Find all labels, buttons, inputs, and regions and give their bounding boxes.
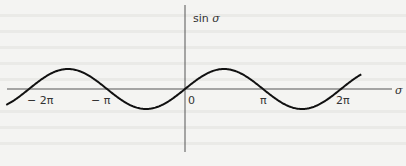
tick-label-pi: π — [260, 95, 267, 106]
x-axis-label: σ — [395, 85, 403, 96]
y-axis-label-func: sin — [193, 12, 209, 25]
tick-label-2pi: 2π — [336, 95, 350, 106]
y-axis-label-var: σ — [212, 12, 220, 25]
tick-label-neg-2pi: − 2π — [27, 95, 53, 106]
tick-label-neg-pi: − π — [91, 95, 110, 106]
y-axis-label: sin σ — [193, 13, 220, 24]
tick-label-zero: 0 — [188, 95, 195, 106]
